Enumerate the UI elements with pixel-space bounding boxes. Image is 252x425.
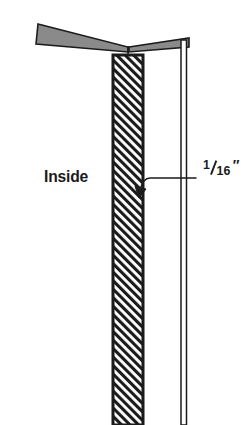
right-vertical-jamb (181, 40, 187, 425)
fraction-one-sixteenth: 1 16 (203, 160, 230, 175)
illustration-svg (0, 0, 252, 425)
inch-mark: ″ (233, 157, 240, 173)
fraction-denominator: 16 (217, 164, 231, 177)
inside-label: Inside (44, 167, 88, 187)
technical-illustration-canvas: Inside 1 16 ″ (0, 0, 252, 425)
dimension-label: 1 16 ″ (203, 160, 238, 176)
hatched-section-member (113, 55, 143, 425)
